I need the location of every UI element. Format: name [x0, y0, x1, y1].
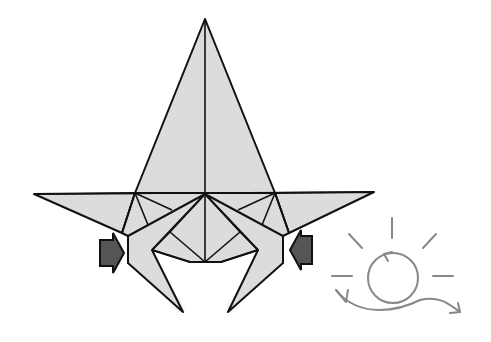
left-flap: [34, 193, 135, 233]
origami-model: [34, 19, 374, 312]
push-arrow-right: [290, 230, 312, 270]
turn-over-symbol: [332, 218, 460, 313]
origami-diagram: [0, 0, 491, 342]
right-flap: [275, 192, 374, 233]
push-arrow-left: [100, 233, 124, 273]
